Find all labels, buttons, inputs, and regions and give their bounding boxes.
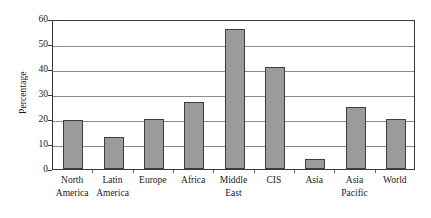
y-axis-tick-label: 0 [28, 165, 48, 175]
bar [225, 29, 245, 169]
y-axis-tick-label: 40 [28, 65, 48, 75]
x-axis-tick-mark [375, 170, 376, 173]
x-axis-tick-label-line1: CIS [266, 175, 281, 185]
x-axis-tick-label-line2: East [220, 187, 247, 200]
bar [63, 120, 83, 169]
y-axis-tick-mark [48, 170, 52, 171]
y-axis-tick-mark [48, 20, 52, 21]
y-axis-tick-mark [48, 95, 52, 96]
x-axis-tick-label-line1: North [61, 175, 83, 185]
x-axis-tick-label: NorthAmerica [56, 174, 89, 200]
x-axis-tick-mark [213, 170, 214, 173]
x-axis-tick-mark [173, 170, 174, 173]
bar [386, 119, 406, 169]
x-axis-tick-label: LatinAmerica [96, 174, 129, 200]
x-axis-tick-mark [254, 170, 255, 173]
x-axis-tick-label-line1: World [383, 175, 407, 185]
x-axis-tick-label: Asia [305, 174, 322, 187]
x-axis-tick-mark [133, 170, 134, 173]
y-axis-tick-label: 30 [28, 90, 48, 100]
bar [265, 67, 285, 170]
x-axis-tick-mark [334, 170, 335, 173]
x-axis-tick-label: World [383, 174, 407, 187]
x-axis-tick-labels: NorthAmericaLatinAmericaEuropeAfricaMidd… [52, 174, 415, 218]
x-axis-tick-label-line2: America [96, 187, 129, 200]
x-axis-tick-label: AsiaPacific [341, 174, 367, 200]
x-axis-tick-label: Europe [139, 174, 166, 187]
y-axis-tick-label: 20 [28, 115, 48, 125]
x-axis-tick-mark [92, 170, 93, 173]
bar [144, 119, 164, 169]
x-axis-tick-label-line1: Asia [346, 175, 363, 185]
y-axis-tick-labels: 0102030405060 [28, 20, 48, 170]
y-axis-tick-label: 50 [28, 40, 48, 50]
bar [305, 159, 325, 169]
y-axis-tick-label: 10 [28, 140, 48, 150]
x-axis-tick-label-line2: America [56, 187, 89, 200]
x-axis-tick-label-line1: Asia [305, 175, 322, 185]
y-axis-tick-label: 60 [28, 15, 48, 25]
bar [184, 102, 204, 170]
y-axis-tick-mark [48, 45, 52, 46]
bar [346, 107, 366, 170]
x-axis-tick-label: Africa [181, 174, 205, 187]
x-axis-tick-label-line2: Pacific [341, 187, 367, 200]
x-axis-tick-label-line1: Latin [102, 175, 122, 185]
x-axis-tick-label-line1: Middle [220, 175, 247, 185]
bar [104, 137, 124, 170]
x-axis-tick-mark [294, 170, 295, 173]
x-axis-tick-label-line1: Europe [139, 175, 166, 185]
plot-area [52, 20, 415, 170]
x-axis-tick-label: CIS [266, 174, 281, 187]
y-axis-tick-mark [48, 70, 52, 71]
x-axis-tick-label: MiddleEast [220, 174, 247, 200]
y-axis-tick-mark [48, 120, 52, 121]
y-axis-tick-mark [48, 145, 52, 146]
x-axis-tick-label-line1: Africa [181, 175, 205, 185]
bar-chart: Percentage 0102030405060 NorthAmericaLat… [0, 0, 431, 218]
